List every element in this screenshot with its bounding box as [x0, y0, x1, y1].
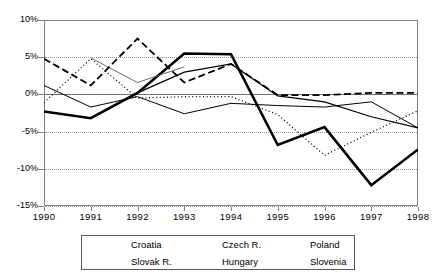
x-axis-tick-label: 1993 [162, 212, 206, 222]
y-axis-tick-label: -10% [17, 164, 38, 173]
legend-label: Poland [310, 239, 340, 250]
legend-label: Czech R. [222, 239, 261, 250]
legend-label: Croatia [131, 239, 162, 250]
x-axis-tick-label: 1995 [256, 212, 300, 222]
chart-legend: CroatiaCzech R.PolandSlovak R.HungarySlo… [81, 235, 355, 270]
series-layer [44, 20, 418, 206]
x-axis-tick-label: 1996 [303, 212, 347, 222]
legend-label: Slovenia [310, 256, 346, 267]
legend-row: Slovak R.HungarySlovenia [82, 253, 354, 270]
series-line-czech-r [44, 59, 418, 156]
series-line-poland [44, 64, 418, 128]
y-axis-tick-label: 5% [25, 52, 38, 61]
y-axis-tick-label: 0% [25, 89, 38, 98]
legend-row: CroatiaCzech R.Poland [82, 236, 354, 253]
series-line-croatia [44, 53, 418, 185]
line-chart: 10%5%0%-5%-10%-15% 199019911992199319941… [0, 0, 436, 276]
y-axis: 10%5%0%-5%-10%-15% [0, 0, 44, 206]
legend-label: Hungary [222, 256, 258, 267]
x-axis-tick-label: 1991 [69, 212, 113, 222]
x-axis-tick-label: 1997 [349, 212, 393, 222]
x-axis-tick-label: 1998 [396, 212, 436, 222]
x-axis: 199019911992199319941995199619971998 [0, 207, 436, 229]
x-axis-tick-label: 1994 [209, 212, 253, 222]
x-axis-tick-label: 1992 [116, 212, 160, 222]
series-line-hungary [44, 85, 418, 127]
y-axis-tick-label: 10% [20, 15, 38, 24]
y-axis-tick-label: -5% [22, 127, 38, 136]
x-axis-tick-label: 1990 [22, 212, 66, 222]
legend-label: Slovak R. [131, 256, 172, 267]
